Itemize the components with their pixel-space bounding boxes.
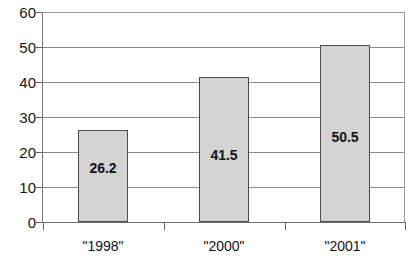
y-tick-label-20: 20 [19,144,36,161]
y-tick-label-60: 60 [19,4,36,21]
x-tick-mark-1 [164,223,165,230]
plot-area [43,12,405,222]
bar-value-2000: 41.5 [210,147,237,163]
bar-chart: 0 10 20 30 40 50 60 26.2 41.5 50.5 "1998… [0,0,417,262]
x-axis-line [42,222,406,223]
plot-right-border [404,12,405,222]
x-category-label-2001: "2001" [324,238,365,254]
y-tick-label-0: 0 [28,214,36,231]
bar-1998[interactable] [78,130,128,222]
x-tick-mark-right [405,223,406,230]
x-category-label-1998: "1998" [82,238,123,254]
y-tick-label-30: 30 [19,109,36,126]
y-tick-label-10: 10 [19,179,36,196]
x-tick-mark-2 [285,223,286,230]
bar-value-1998: 26.2 [89,160,116,176]
y-tick-label-40: 40 [19,74,36,91]
y-axis-labels: 0 10 20 30 40 50 60 [0,0,36,262]
bar-value-2001: 50.5 [331,129,358,145]
x-tick-mark-left [43,223,44,230]
x-category-label-2000: "2000" [203,238,244,254]
gridline-60 [43,12,405,13]
y-tick-label-50: 50 [19,39,36,56]
y-axis-line [42,12,43,223]
